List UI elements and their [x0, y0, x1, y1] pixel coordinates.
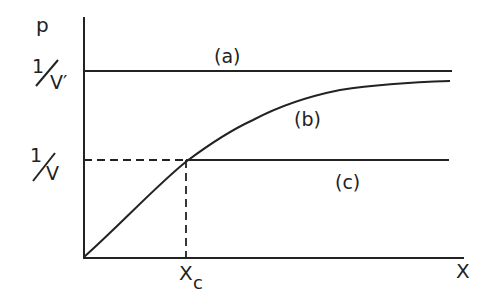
tick-main: X	[179, 261, 193, 285]
curve-b	[84, 81, 450, 257]
curve-label-b: (b)	[294, 108, 321, 130]
tick-denominator: V′	[50, 71, 67, 93]
x-axis-label: X	[456, 259, 470, 283]
diagram: p 1 V′ 1 V X c X (a) (b) (c)	[0, 0, 488, 303]
x-tick-label-xc: X c	[179, 261, 203, 293]
tick-numerator: 1	[32, 55, 44, 77]
y-axis-label: p	[36, 13, 49, 37]
curve-label-c: (c)	[335, 171, 360, 193]
y-tick-label-inverse-v-prime: 1 V′	[32, 55, 67, 93]
tick-denominator: V	[46, 162, 59, 184]
curve-label-a: (a)	[214, 45, 240, 67]
tick-subscript: c	[193, 272, 203, 293]
tick-numerator: 1	[30, 144, 42, 166]
y-tick-label-inverse-v: 1 V	[30, 144, 59, 184]
